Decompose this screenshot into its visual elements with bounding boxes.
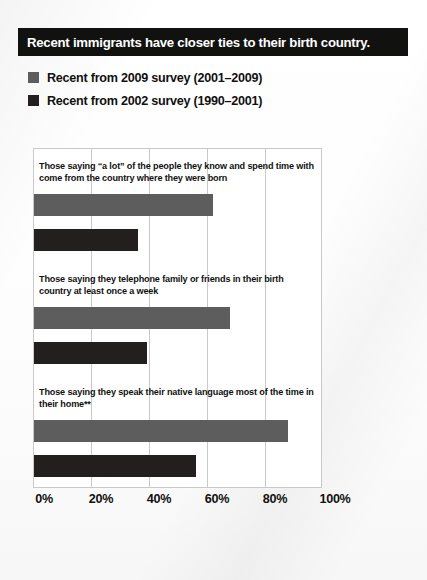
bar-1-series-0 [34,307,230,329]
legend-label-2009: Recent from 2009 survey (2001–2009) [47,71,262,85]
chart-figure: Recent immigrants have closer ties to th… [0,0,427,580]
bar-2-series-0 [34,420,288,442]
page-title: Recent immigrants have closer ties to th… [18,35,370,50]
x-tick-100: 100% [319,492,350,506]
bar-0-series-0 [34,194,213,216]
category-label-2: Those saying they speak their native lan… [39,387,317,410]
chart-legend: Recent from 2009 survey (2001–2009) Rece… [28,66,408,112]
plot-area: Those saying “a lot” of the people they … [33,148,322,488]
chart-title-banner: Recent immigrants have closer ties to th… [18,28,408,56]
x-tick-0: 0% [35,492,53,506]
legend-item-2002: Recent from 2002 survey (1990–2001) [28,89,408,112]
bar-group-2: Those saying they speak their native lan… [34,375,321,488]
bar-0-series-1 [34,229,138,251]
x-tick-40: 40% [147,492,171,506]
category-label-0: Those saying “a lot” of the people they … [39,161,317,184]
x-axis-tick-labels: 0% 20% 40% 60% 80% 100% [0,492,427,516]
bar-1-series-1 [34,342,147,364]
legend-swatch-2009 [28,72,39,83]
x-tick-60: 60% [205,492,229,506]
bar-groups: Those saying “a lot” of the people they … [34,149,321,487]
legend-swatch-2002 [28,95,39,106]
bar-group-0: Those saying “a lot” of the people they … [34,149,321,262]
x-tick-80: 80% [263,492,287,506]
bar-group-1: Those saying they telephone family or fr… [34,262,321,375]
legend-label-2002: Recent from 2002 survey (1990–2001) [47,94,262,108]
category-label-1: Those saying they telephone family or fr… [39,274,317,297]
bar-2-series-1 [34,455,196,477]
x-tick-20: 20% [89,492,113,506]
legend-item-2009: Recent from 2009 survey (2001–2009) [28,66,408,89]
